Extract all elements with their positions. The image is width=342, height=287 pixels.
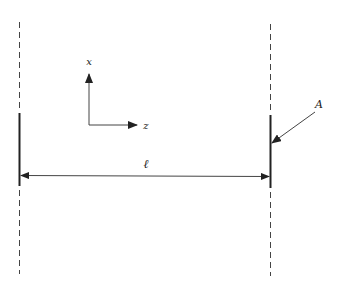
pointer-label-a: A <box>314 98 323 111</box>
length-dimension-arrow <box>21 176 269 177</box>
pointer-leader-arrow <box>272 112 315 143</box>
diagram-canvas: ℓ x z A <box>0 0 342 287</box>
z-axis-label: z <box>142 120 149 131</box>
coordinate-axes: x z <box>86 56 149 131</box>
length-label: ℓ <box>144 157 149 171</box>
x-axis-label: x <box>86 56 92 67</box>
